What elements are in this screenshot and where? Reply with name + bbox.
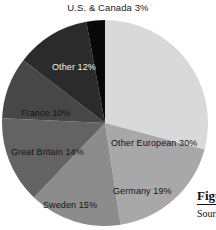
- slice-label-germany: Germany 19%: [113, 186, 172, 196]
- slice-label-sweden: Sweden 15%: [43, 200, 97, 210]
- slice-label-other: Other 12%: [52, 62, 96, 72]
- figure-caption-title: Figure: [197, 189, 216, 205]
- pie-chart-figure: U.S. & Canada 3% Other European 30% Germ…: [0, 0, 216, 230]
- slice-label-other-european: Other European 30%: [111, 138, 197, 148]
- slice-label-france: France 10%: [21, 108, 71, 118]
- pie-chart-svg: [2, 20, 208, 226]
- slice-label-us-canada: U.S. & Canada 3%: [0, 2, 216, 13]
- pie-slice-group: [2, 20, 208, 226]
- figure-caption: Figure Source:: [197, 186, 216, 230]
- figure-caption-source: Source:: [197, 208, 216, 219]
- pie-chart: Other European 30% Germany 19% Sweden 15…: [2, 20, 208, 226]
- slice-label-great-britain: Great Britain 14%: [11, 147, 84, 157]
